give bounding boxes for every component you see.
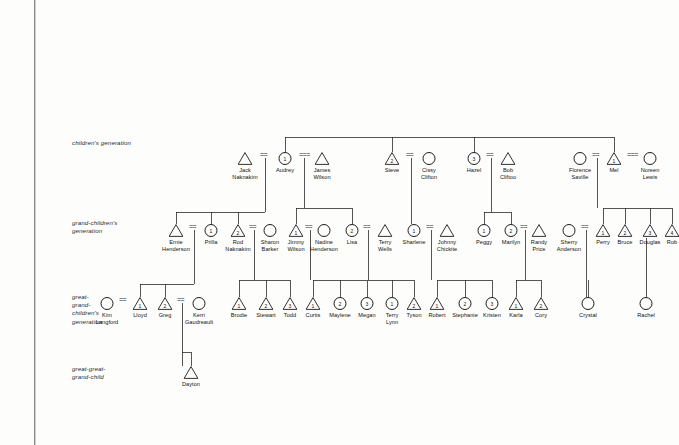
birth-order-number: 2 [231,231,246,236]
union-mark-florence-mel: == [592,151,599,158]
person-name-label: Florence Saville [569,167,591,180]
birth-order-number: 1 [232,304,247,309]
female-circle-icon: 2 [505,224,518,237]
person-name-label: Peggy [476,239,492,246]
female-circle-icon: 2 [459,297,472,310]
person-name-label: Prilla [205,239,218,246]
person-name-label: Nadine Henderson [310,239,338,252]
male-triangle-icon: 4 [665,224,679,237]
person-name-label: Steve [385,167,400,174]
birth-order-number: 2 [335,302,346,307]
male-triangle-icon: 1 [430,297,445,310]
birth-order-number: 2 [259,304,274,309]
male-triangle-icon [532,224,547,237]
birth-order-number: 1 [430,304,445,309]
female-circle-icon [101,297,114,310]
birth-order-number: 2 [534,304,549,309]
male-triangle-icon: 1 [509,297,524,310]
person-name-label: Douglas [640,239,661,246]
birth-order-number: 1 [607,159,622,164]
female-circle-icon: 1 [279,152,292,165]
birth-order-number: 1 [133,304,148,309]
female-circle-icon [640,297,653,310]
person-name-label: James Wilson [313,167,330,180]
person-name-label: Bruce [618,239,633,246]
male-triangle-icon: 2 [259,297,274,310]
person-name-label: Jimmy Wilson [287,239,304,252]
birth-order-number: 3 [643,231,658,236]
female-circle-icon: 3 [468,152,481,165]
person-name-label: Cory [535,312,547,319]
union-mark-mel-noreen: === [627,151,638,158]
male-triangle-icon [378,224,393,237]
person-name-label: Dayton [182,381,200,388]
union-mark-ernie-prilla: == [189,223,196,230]
person-name-label: Terry Wells [378,239,392,252]
birth-order-number: 3 [469,157,480,162]
birth-order-number: 2 [618,231,633,236]
union-mark-jack-audrey: == [260,151,267,158]
male-triangle-icon: 2 [158,297,173,310]
generation-label-grandchildren: grand-children's generation [72,219,117,235]
person-name-label: Kim Langford [96,312,118,325]
female-circle-icon: 2 [346,224,359,237]
female-circle-icon: 1 [478,224,491,237]
female-circle-icon: 3 [486,297,499,310]
female-circle-icon [264,224,277,237]
male-triangle-icon: 1 [289,224,304,237]
union-mark-sherry-perry: == [581,223,588,230]
birth-order-number: 1 [479,229,490,234]
female-circle-icon [574,152,587,165]
male-triangle-icon: 1 [596,224,611,237]
person-name-label: Tyson [406,312,421,319]
person-name-label: Ernie Henderson [162,239,190,252]
union-mark-lisa-terryw: == [363,223,370,230]
person-name-label: Karla [509,312,522,319]
union-mark-steve-cissy: == [406,151,413,158]
person-name-label: Todd [284,312,296,319]
male-triangle-icon: 2 [407,297,422,310]
person-name-label: Jack Naknakim [232,167,257,180]
birth-order-number: 1 [509,304,524,309]
birth-order-number: 2 [385,159,400,164]
birth-order-number: 1 [596,231,611,236]
female-circle-icon [582,297,595,310]
person-name-label: Rob [667,239,677,246]
union-mark-rod-sharon: == [249,223,256,230]
birth-order-number: 2 [347,229,358,234]
female-circle-icon [644,152,657,165]
female-circle-icon [193,297,206,310]
birth-order-number: 1 [289,231,304,236]
person-name-label: Maylene [329,312,351,319]
union-mark-audrey-james: === [299,151,310,158]
person-name-label: Brodie [231,312,247,319]
person-name-label: Rod Naknakim [225,239,250,252]
male-triangle-icon: 1 [306,297,321,310]
male-triangle-icon [315,152,330,165]
person-name-label: Randy Price [531,239,547,252]
person-name-label: Mel [609,167,618,174]
person-name-label: Bob Cliftoo [500,167,516,180]
male-triangle-icon: 2 [534,297,549,310]
male-triangle-icon [238,152,253,165]
female-circle-icon: 1 [386,297,399,310]
birth-order-number: 3 [362,302,373,307]
birth-order-number: 4 [665,231,679,236]
person-name-label: Perry [596,239,610,246]
union-mark-sharlene-johnny: == [426,223,433,230]
person-name-label: Lisa [347,239,357,246]
person-name-label: Kerri Gaudreault [185,312,213,325]
birth-order-number: 1 [206,229,217,234]
person-name-label: Marilyn [502,239,520,246]
birth-order-number: 2 [158,304,173,309]
birth-order-number: 1 [280,157,291,162]
page-edge-shadow [35,0,36,445]
birth-order-number: 3 [283,304,298,309]
person-name-label: Robert [428,312,445,319]
male-triangle-icon: 1 [607,152,622,165]
person-name-label: Cissy Clifton [421,167,437,180]
female-circle-icon [423,152,436,165]
person-name-label: Noreen Lewis [641,167,660,180]
person-name-label: Lloyd [133,312,147,319]
generation-label-children: children's generation [72,139,131,147]
